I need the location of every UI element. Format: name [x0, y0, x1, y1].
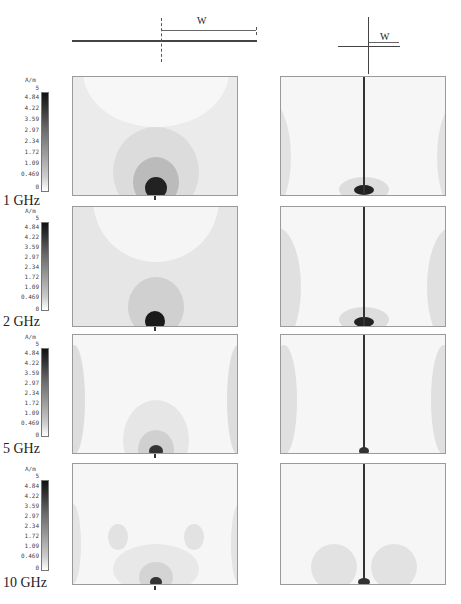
tick: 1.72 — [3, 532, 39, 539]
width-label: W — [197, 15, 206, 26]
field-map-left — [72, 334, 238, 454]
tick: 2.97 — [3, 512, 39, 519]
colorbar — [41, 348, 49, 437]
width-label: W — [380, 31, 389, 42]
tick: 3.59 — [3, 369, 39, 376]
field-map-right — [280, 76, 446, 196]
tick: 0.469 — [3, 170, 39, 177]
tick: 0.469 — [3, 293, 39, 300]
field-map-right — [280, 334, 446, 454]
tick: 2.34 — [3, 137, 39, 144]
field-map-left — [72, 463, 238, 585]
tick: 5 — [3, 340, 39, 347]
tick: 0 — [3, 305, 39, 312]
feed-marker — [154, 454, 156, 458]
colorbar — [41, 222, 49, 311]
width-dimension-line — [369, 42, 399, 43]
tick: 0 — [3, 431, 39, 438]
colorbar — [41, 480, 49, 571]
colorbar-unit: A/m — [25, 465, 36, 472]
feed-marker — [154, 586, 156, 590]
tick: 4.84 — [3, 482, 39, 489]
field-map-left — [72, 206, 238, 327]
tick: 2.34 — [3, 522, 39, 529]
tick: 4.22 — [3, 104, 39, 111]
field-map-right — [280, 463, 446, 585]
tick: 2.97 — [3, 126, 39, 133]
tick: 4.84 — [3, 223, 39, 230]
frequency-label: 5 GHz — [3, 441, 40, 457]
colorbar-unit: A/m — [25, 333, 36, 340]
tick: 1.09 — [3, 283, 39, 290]
ground-line — [72, 40, 257, 42]
tick: 5 — [3, 472, 39, 479]
tick: 1.09 — [3, 542, 39, 549]
tick: 4.84 — [3, 349, 39, 356]
conductor-line — [363, 464, 365, 584]
frequency-label: 2 GHz — [3, 314, 40, 330]
tick: 0 — [3, 564, 39, 571]
tick: 2.34 — [3, 389, 39, 396]
tick: 5 — [3, 84, 39, 91]
tick: 4.22 — [3, 492, 39, 499]
tick: 1.09 — [3, 159, 39, 166]
field-map-left — [72, 76, 238, 196]
tick: 0.469 — [3, 419, 39, 426]
colorbar-unit: A/m — [25, 207, 36, 214]
ground-line — [338, 46, 400, 47]
tick: 1.72 — [3, 399, 39, 406]
frequency-label: 10 GHz — [3, 575, 47, 591]
colorbar-unit: A/m — [25, 76, 36, 83]
colorbar — [41, 92, 49, 192]
conductor-line — [363, 207, 365, 326]
tick: 5 — [3, 214, 39, 221]
tick: 2.34 — [3, 263, 39, 270]
width-dimension-line — [162, 30, 256, 31]
tick: 0.469 — [3, 552, 39, 559]
tick: 2.97 — [3, 253, 39, 260]
tick: 3.59 — [3, 502, 39, 509]
conductor-line — [363, 77, 365, 195]
tick: 4.84 — [3, 93, 39, 100]
feed-marker-dashed — [161, 18, 162, 62]
tick: 4.22 — [3, 359, 39, 366]
tick: 0 — [3, 183, 39, 190]
vertical-conductor — [368, 17, 369, 74]
tick: 4.22 — [3, 233, 39, 240]
tick: 1.09 — [3, 409, 39, 416]
dimension-end-tick — [256, 27, 257, 35]
tick: 3.59 — [3, 115, 39, 122]
feed-marker — [154, 196, 156, 200]
feed-marker — [154, 327, 156, 331]
conductor-line — [363, 335, 365, 453]
tick: 1.72 — [3, 273, 39, 280]
tick: 2.97 — [3, 379, 39, 386]
field-map-right — [280, 206, 446, 327]
tick: 3.59 — [3, 243, 39, 250]
tick: 1.72 — [3, 148, 39, 155]
